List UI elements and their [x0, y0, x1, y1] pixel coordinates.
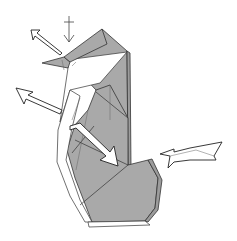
base-edge [88, 221, 150, 227]
push-arrow-head [31, 30, 62, 55]
valley-fold-arrow [64, 16, 74, 42]
unfold-arrow-left [16, 88, 62, 114]
push-arrow-right [160, 142, 222, 168]
origami-diagram [0, 0, 237, 241]
